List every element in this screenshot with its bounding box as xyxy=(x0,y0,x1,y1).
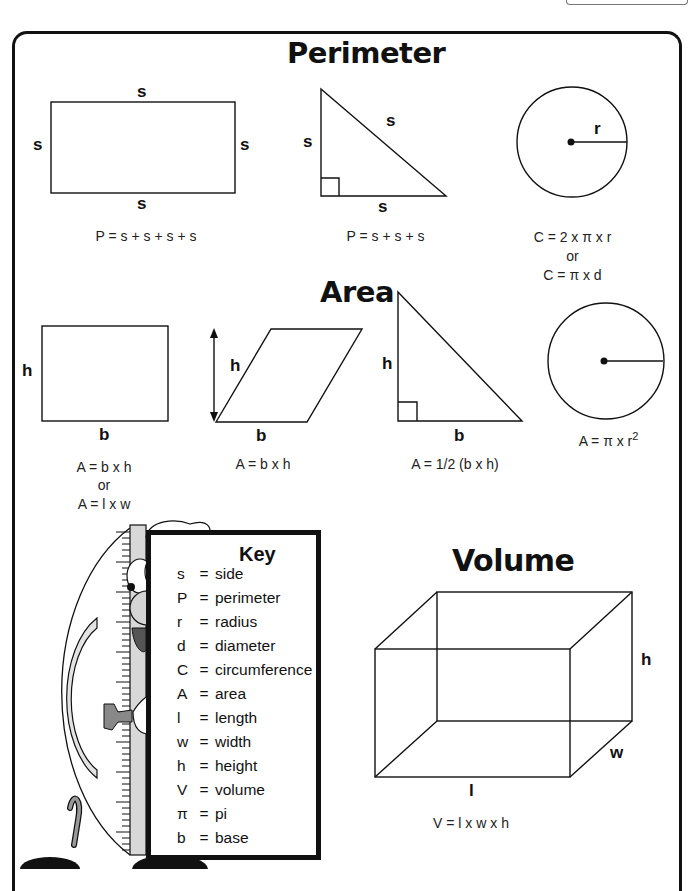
area-tri-height-label: h xyxy=(382,354,392,374)
key-symbol: l xyxy=(177,709,193,727)
key-symbol: h xyxy=(177,757,193,775)
perimeter-title: Perimeter xyxy=(287,36,445,70)
key-equals: = xyxy=(193,757,215,775)
key-item: V=volume xyxy=(177,781,265,799)
tri-bottom-label: s xyxy=(378,197,387,217)
key-meaning: base xyxy=(215,829,249,846)
key-equals: = xyxy=(193,685,215,703)
key-meaning: height xyxy=(215,757,257,774)
circumference-formula-2: C = π x d xyxy=(525,267,620,283)
key-equals: = xyxy=(193,805,215,823)
circumference-formula-1: C = 2 x π x r xyxy=(525,229,620,245)
area-rect-formula-2: A = l x w xyxy=(60,496,148,512)
volume-title: Volume xyxy=(452,543,574,578)
key-equals: = xyxy=(193,613,215,631)
perimeter-tri-formula: P = s + s + s xyxy=(338,228,433,244)
area-rect-formula-1: A = b x h xyxy=(60,459,148,475)
key-equals: = xyxy=(193,661,215,679)
key-meaning: pi xyxy=(215,805,227,822)
key-meaning: circumference xyxy=(215,661,312,678)
key-item: π=pi xyxy=(177,805,227,823)
area-rect-or: or xyxy=(60,477,148,493)
key-equals: = xyxy=(193,709,215,727)
key-item: P=perimeter xyxy=(177,589,280,607)
key-meaning: side xyxy=(215,565,243,582)
perimeter-rectangle xyxy=(51,102,235,193)
area-circle-formula-text: A = π x r xyxy=(579,433,633,449)
area-rect-base-label: b xyxy=(99,425,109,445)
key-item: C=circumference xyxy=(177,661,312,679)
rect-right-label: s xyxy=(240,135,249,155)
key-title: Key xyxy=(239,543,276,566)
key-meaning: length xyxy=(215,709,257,726)
key-equals: = xyxy=(193,637,215,655)
key-symbol: V xyxy=(177,781,193,799)
volume-formula: V = l x w x h xyxy=(425,815,517,831)
key-item: d=diameter xyxy=(177,637,275,655)
key-symbol: π xyxy=(177,805,193,823)
key-item: A=area xyxy=(177,685,246,703)
prism-width-label: w xyxy=(610,743,623,763)
key-meaning: volume xyxy=(215,781,265,798)
key-item: w=width xyxy=(177,733,251,751)
area-circle-center xyxy=(601,358,608,365)
rect-bottom-label: s xyxy=(137,194,146,214)
key-equals: = xyxy=(193,565,215,583)
key-meaning: perimeter xyxy=(215,589,280,606)
parallelogram-height-label: h xyxy=(230,356,240,376)
key-symbol: b xyxy=(177,829,193,847)
perimeter-triangle xyxy=(321,89,446,196)
key-meaning: width xyxy=(215,733,251,750)
tri-hyp-label: s xyxy=(386,111,395,131)
key-symbol: r xyxy=(177,613,193,631)
parallelogram-formula: A = b x h xyxy=(223,456,303,472)
arrow-head-up xyxy=(210,328,218,338)
area-title: Area xyxy=(320,275,394,309)
key-item: r=radius xyxy=(177,613,257,631)
key-symbol: s xyxy=(177,565,193,583)
prism-height-label: h xyxy=(641,650,651,670)
parallelogram-base-label: b xyxy=(256,426,266,446)
circumference-or: or xyxy=(525,248,620,264)
perimeter-rect-formula: P = s + s + s + s xyxy=(86,228,206,244)
key-item: l=length xyxy=(177,709,257,727)
key-symbol: w xyxy=(177,733,193,751)
circle-radius-label: r xyxy=(594,119,601,139)
key-meaning: area xyxy=(215,685,246,702)
perimeter-circle-center xyxy=(568,139,575,146)
key-item: h=height xyxy=(177,757,257,775)
prism-front-face xyxy=(375,649,570,777)
mascot-shoe-left xyxy=(20,857,80,869)
key-equals: = xyxy=(193,829,215,847)
rect-top-label: s xyxy=(137,82,146,102)
key-symbol: A xyxy=(177,685,193,703)
key-equals: = xyxy=(193,589,215,607)
key-equals: = xyxy=(193,733,215,751)
rect-left-label: s xyxy=(33,135,42,155)
prism-length-label: l xyxy=(469,781,474,801)
area-circle-formula: A = π x r2 xyxy=(566,430,651,449)
area-triangle-right-angle xyxy=(398,402,417,421)
key-equals: = xyxy=(193,781,215,799)
perimeter-triangle-right-angle xyxy=(321,178,339,196)
key-item: b=base xyxy=(177,829,249,847)
key-meaning: radius xyxy=(215,613,257,630)
prism-back-face xyxy=(437,592,632,721)
tri-left-label: s xyxy=(303,132,312,152)
area-rectangle xyxy=(42,326,168,421)
area-rect-height-label: h xyxy=(22,361,32,381)
key-meaning: diameter xyxy=(215,637,275,654)
area-tri-base-label: b xyxy=(454,426,464,446)
area-tri-formula: A = 1/2 (b x h) xyxy=(405,456,505,472)
key-box: Key s=sideP=perimeterr=radiusd=diameterC… xyxy=(146,530,321,860)
key-item: s=side xyxy=(177,565,243,583)
key-symbol: C xyxy=(177,661,193,679)
key-symbol: d xyxy=(177,637,193,655)
key-symbol: P xyxy=(177,589,193,607)
area-circle-exponent: 2 xyxy=(632,430,638,442)
